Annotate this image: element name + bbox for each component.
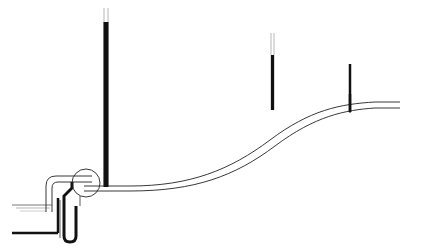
- suction-reservoir: [12, 198, 58, 233]
- piezometer-discharge: [104, 8, 109, 187]
- suction-manometer: [60, 182, 80, 242]
- pump-casing: [72, 169, 100, 197]
- suction-pipe: [46, 176, 92, 212]
- discharge-pipe: [84, 102, 400, 191]
- piezometer-mid: [271, 33, 274, 110]
- pump-diagram: [0, 0, 433, 249]
